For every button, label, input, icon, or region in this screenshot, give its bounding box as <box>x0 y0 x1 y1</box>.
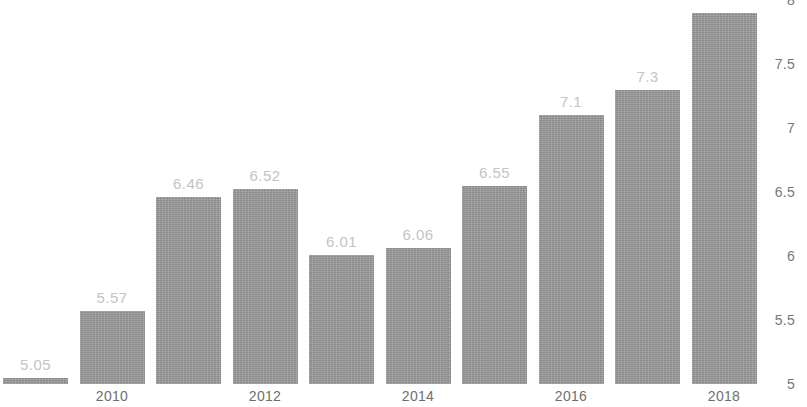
x-tick-label: 2010 <box>96 388 128 404</box>
bar-value-label: 5.05 <box>3 356 68 373</box>
bar-group <box>692 0 757 384</box>
bar-value-label: 5.57 <box>80 289 145 306</box>
bar[interactable] <box>692 13 757 384</box>
y-tick-label: 6.5 <box>775 184 795 200</box>
bar[interactable] <box>80 311 145 384</box>
x-axis: 20102012201420162018 <box>0 384 752 407</box>
y-tick-label: 7.5 <box>775 56 795 72</box>
x-tick-label: 2014 <box>402 388 434 404</box>
bar-value-label: 6.01 <box>309 233 374 250</box>
bar-group: 7.3 <box>615 0 680 384</box>
bar-value-label: 7.3 <box>615 68 680 85</box>
y-tick-label: 5.5 <box>775 312 795 328</box>
bar-value-label: 6.06 <box>386 226 451 243</box>
y-tick-label: 6 <box>787 248 795 264</box>
bar-value-label: 6.46 <box>156 175 221 192</box>
y-tick-label: 8 <box>787 0 795 8</box>
bar-group: 6.55 <box>462 0 527 384</box>
bar-group: 6.52 <box>233 0 298 384</box>
x-tick-label: 2016 <box>555 388 587 404</box>
y-axis: 87.576.565.55 <box>752 0 807 407</box>
y-tick-label: 5 <box>787 376 795 392</box>
bar-group: 6.01 <box>309 0 374 384</box>
bar-value-label: 6.52 <box>233 167 298 184</box>
x-tick-label: 2012 <box>249 388 281 404</box>
bar-group: 6.46 <box>156 0 221 384</box>
bar[interactable] <box>309 255 374 384</box>
bar[interactable] <box>615 90 680 384</box>
bar-chart: 5.055.576.466.526.016.066.557.17.3 20102… <box>0 0 807 407</box>
bar-group: 7.1 <box>539 0 604 384</box>
bar[interactable] <box>233 189 298 384</box>
bar-group: 5.05 <box>3 0 68 384</box>
bar-value-label: 6.55 <box>462 164 527 181</box>
y-tick-label: 7 <box>787 120 795 136</box>
bar[interactable] <box>462 186 527 384</box>
bar[interactable] <box>386 248 451 384</box>
plot-area: 5.055.576.466.526.016.066.557.17.3 <box>0 0 752 384</box>
bar-value-label: 7.1 <box>539 93 604 110</box>
bar-group: 6.06 <box>386 0 451 384</box>
bar[interactable] <box>539 115 604 384</box>
bar-group: 5.57 <box>80 0 145 384</box>
bar[interactable] <box>156 197 221 384</box>
x-tick-label: 2018 <box>708 388 740 404</box>
